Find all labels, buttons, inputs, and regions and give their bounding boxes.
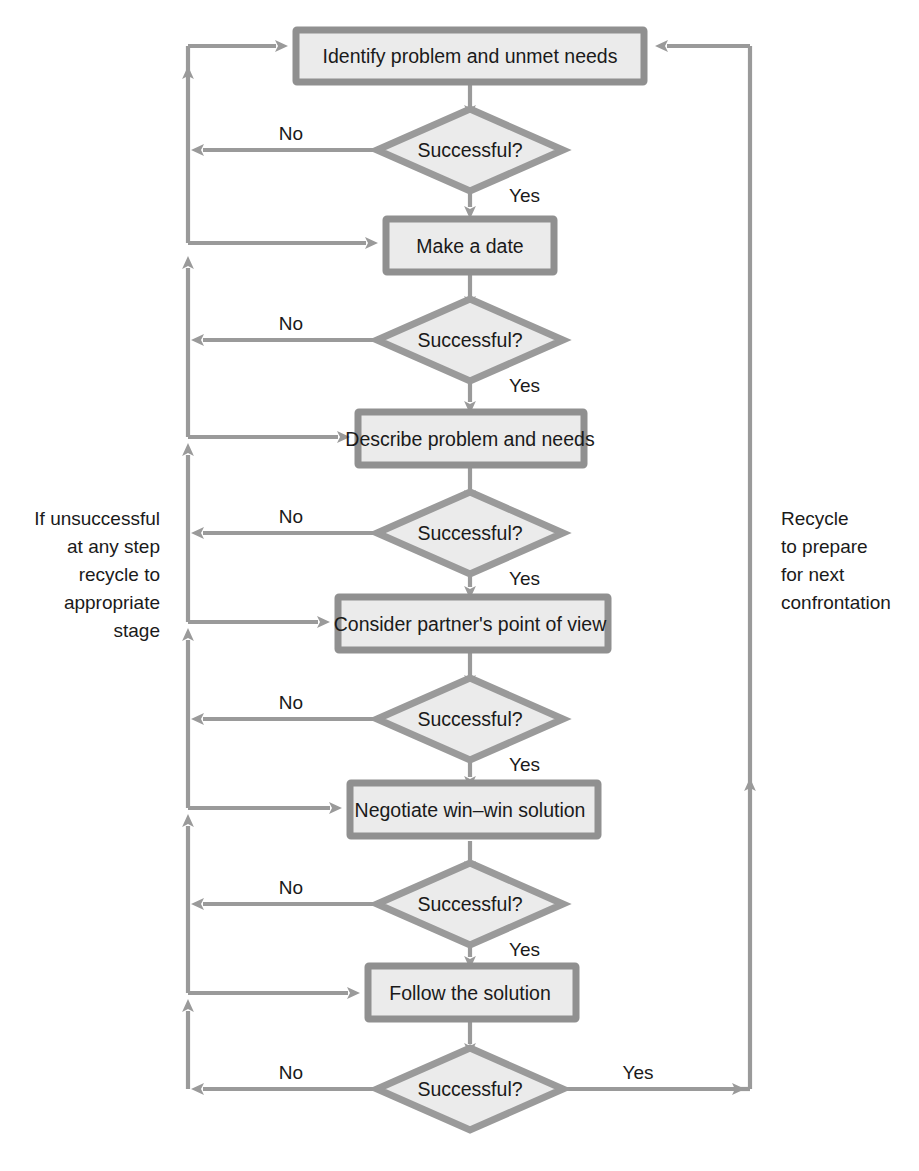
left-annotation-line-4: appropriate	[64, 592, 160, 613]
process-label-step6: Follow the solution	[389, 982, 551, 1004]
decision-label-dec2: Successful?	[417, 329, 522, 351]
left-annotation-line-3: recycle to	[79, 564, 160, 585]
process-node-step2[interactable]: Make a date	[386, 219, 554, 272]
right-annotation-line-2: to prepare	[781, 536, 868, 557]
right-annotation: Recycle to prepare for next confrontatio…	[781, 508, 891, 613]
edge-label-yes-3: Yes	[509, 568, 540, 589]
left-annotation-line-2: at any step	[67, 536, 160, 557]
decision-label-dec6: Successful?	[417, 1078, 522, 1100]
flowchart-canvas: Identify problem and unmet needs Make a …	[0, 0, 919, 1171]
decision-node-dec3[interactable]: Successful?	[377, 492, 563, 574]
process-label-step4: Consider partner's point of view	[334, 613, 607, 635]
decision-label-dec5: Successful?	[417, 893, 522, 915]
left-annotation: If unsuccessful at any step recycle to a…	[34, 508, 160, 641]
left-annotation-line-1: If unsuccessful	[34, 508, 160, 529]
decision-label-dec3: Successful?	[417, 522, 522, 544]
process-label-step1: Identify problem and unmet needs	[323, 45, 618, 67]
edge-label-no-5: No	[279, 877, 303, 898]
edge-label-yes-6: Yes	[623, 1062, 654, 1083]
process-label-step5: Negotiate win–win solution	[355, 799, 586, 821]
edge-label-yes-5: Yes	[509, 939, 540, 960]
edge-label-no-1: No	[279, 123, 303, 144]
decision-node-dec5[interactable]: Successful?	[377, 863, 563, 945]
edge-label-no-2: No	[279, 313, 303, 334]
decision-node-dec6[interactable]: Successful?	[377, 1048, 563, 1130]
right-annotation-line-1: Recycle	[781, 508, 849, 529]
decision-label-dec4: Successful?	[417, 708, 522, 730]
decision-node-dec2[interactable]: Successful?	[377, 299, 563, 381]
decision-node-dec4[interactable]: Successful?	[377, 678, 563, 760]
decision-node-dec1[interactable]: Successful?	[377, 109, 563, 191]
right-annotation-line-3: for next	[781, 564, 845, 585]
flowchart-svg: Identify problem and unmet needs Make a …	[0, 0, 919, 1171]
process-node-step4[interactable]: Consider partner's point of view	[334, 597, 608, 650]
decision-label-dec1: Successful?	[417, 139, 522, 161]
edge-label-no-3: No	[279, 506, 303, 527]
edge-label-yes-2: Yes	[509, 375, 540, 396]
process-node-step6[interactable]: Follow the solution	[368, 966, 576, 1019]
process-node-step1[interactable]: Identify problem and unmet needs	[296, 30, 644, 82]
edge-label-yes-1: Yes	[509, 185, 540, 206]
edge-label-no-6: No	[279, 1062, 303, 1083]
left-annotation-line-5: stage	[114, 620, 160, 641]
process-label-step2: Make a date	[416, 235, 523, 257]
edge-label-yes-4: Yes	[509, 754, 540, 775]
edge-label-no-4: No	[279, 692, 303, 713]
process-node-step5[interactable]: Negotiate win–win solution	[350, 783, 598, 836]
right-annotation-line-4: confrontation	[781, 592, 891, 613]
process-label-step3: Describe problem and needs	[345, 428, 595, 450]
process-node-step3[interactable]: Describe problem and needs	[345, 412, 595, 465]
